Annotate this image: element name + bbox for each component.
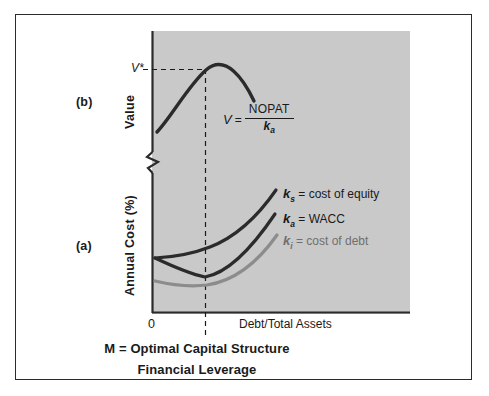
- figure-root: (b) (a) Value Annual Cost (%) V* 0 Debt/…: [0, 0, 489, 396]
- curve-cost-of-debt: [155, 235, 277, 286]
- y-axis-break-icon: [147, 152, 158, 173]
- chart-vector-overlay: [0, 0, 489, 396]
- curve-cost-of-equity: [155, 190, 276, 258]
